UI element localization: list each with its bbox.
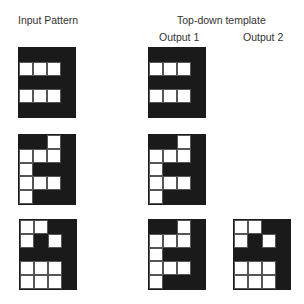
filled-cell (276, 234, 290, 248)
empty-cell (177, 149, 191, 163)
empty-cell (47, 135, 61, 149)
empty-cell (19, 190, 33, 204)
filled-cell (62, 275, 76, 289)
filled-cell (191, 89, 205, 103)
filled-cell (163, 76, 177, 90)
empty-cell (48, 234, 62, 248)
empty-cell (248, 275, 262, 289)
filled-cell (33, 76, 47, 90)
filled-cell (262, 220, 276, 234)
filled-cell (276, 248, 290, 262)
empty-cell (48, 275, 62, 289)
filled-cell (191, 62, 205, 76)
empty-cell (149, 62, 163, 76)
output-2-heading: Output 2 (243, 32, 283, 43)
empty-cell (248, 220, 262, 234)
empty-cell (177, 234, 191, 248)
empty-cell (33, 149, 47, 163)
filled-cell (61, 149, 75, 163)
empty-cell (19, 149, 33, 163)
filled-cell (163, 220, 177, 234)
filled-cell (191, 48, 205, 62)
filled-cell (177, 103, 191, 117)
filled-cell (177, 48, 191, 62)
empty-cell (20, 275, 34, 289)
filled-cell (48, 220, 62, 234)
filled-cell (234, 248, 248, 262)
filled-cell (276, 275, 290, 289)
empty-cell (163, 261, 177, 275)
filled-cell (61, 190, 75, 204)
empty-cell (248, 261, 262, 275)
input-pattern-heading: Input Pattern (18, 15, 78, 26)
top-down-template-heading: Top-down template (177, 15, 266, 26)
empty-cell (177, 176, 191, 190)
filled-cell (163, 163, 177, 177)
filled-cell (191, 176, 205, 190)
filled-cell (191, 234, 205, 248)
empty-cell (149, 275, 163, 289)
filled-cell (33, 48, 47, 62)
filled-cell (191, 163, 205, 177)
filled-cell (34, 248, 48, 262)
pattern-grid-input-2 (18, 134, 76, 205)
empty-cell (47, 149, 61, 163)
filled-cell (177, 163, 191, 177)
filled-cell (191, 220, 205, 234)
filled-cell (149, 48, 163, 62)
empty-cell (19, 163, 33, 177)
empty-cell (47, 176, 61, 190)
pattern-grid-output1-3 (148, 219, 206, 290)
empty-cell (262, 261, 276, 275)
filled-cell (163, 103, 177, 117)
empty-cell (262, 234, 276, 248)
filled-cell (19, 135, 33, 149)
filled-cell (191, 275, 205, 289)
pattern-grid-input-3 (19, 219, 77, 290)
empty-cell (20, 234, 34, 248)
filled-cell (61, 76, 75, 90)
empty-cell (19, 89, 33, 103)
empty-cell (20, 261, 34, 275)
filled-cell (191, 76, 205, 90)
filled-cell (47, 48, 61, 62)
filled-cell (276, 261, 290, 275)
filled-cell (191, 261, 205, 275)
empty-cell (149, 234, 163, 248)
empty-cell (149, 176, 163, 190)
filled-cell (191, 135, 205, 149)
empty-cell (47, 62, 61, 76)
filled-cell (61, 103, 75, 117)
filled-cell (149, 220, 163, 234)
empty-cell (19, 176, 33, 190)
empty-cell (177, 62, 191, 76)
filled-cell (177, 76, 191, 90)
filled-cell (61, 48, 75, 62)
filled-cell (163, 248, 177, 262)
filled-cell (149, 103, 163, 117)
filled-cell (248, 248, 262, 262)
empty-cell (19, 62, 33, 76)
empty-cell (234, 261, 248, 275)
filled-cell (33, 103, 47, 117)
filled-cell (19, 103, 33, 117)
filled-cell (19, 76, 33, 90)
filled-cell (20, 248, 34, 262)
pattern-grid-output1-1 (148, 47, 206, 118)
filled-cell (262, 248, 276, 262)
filled-cell (191, 103, 205, 117)
output-1-heading: Output 1 (159, 32, 199, 43)
empty-cell (34, 220, 48, 234)
empty-cell (163, 89, 177, 103)
empty-cell (163, 234, 177, 248)
empty-cell (149, 261, 163, 275)
filled-cell (61, 163, 75, 177)
filled-cell (61, 135, 75, 149)
filled-cell (34, 234, 48, 248)
filled-cell (163, 275, 177, 289)
filled-cell (248, 234, 262, 248)
filled-cell (47, 163, 61, 177)
filled-cell (19, 48, 33, 62)
filled-cell (61, 176, 75, 190)
empty-cell (262, 275, 276, 289)
